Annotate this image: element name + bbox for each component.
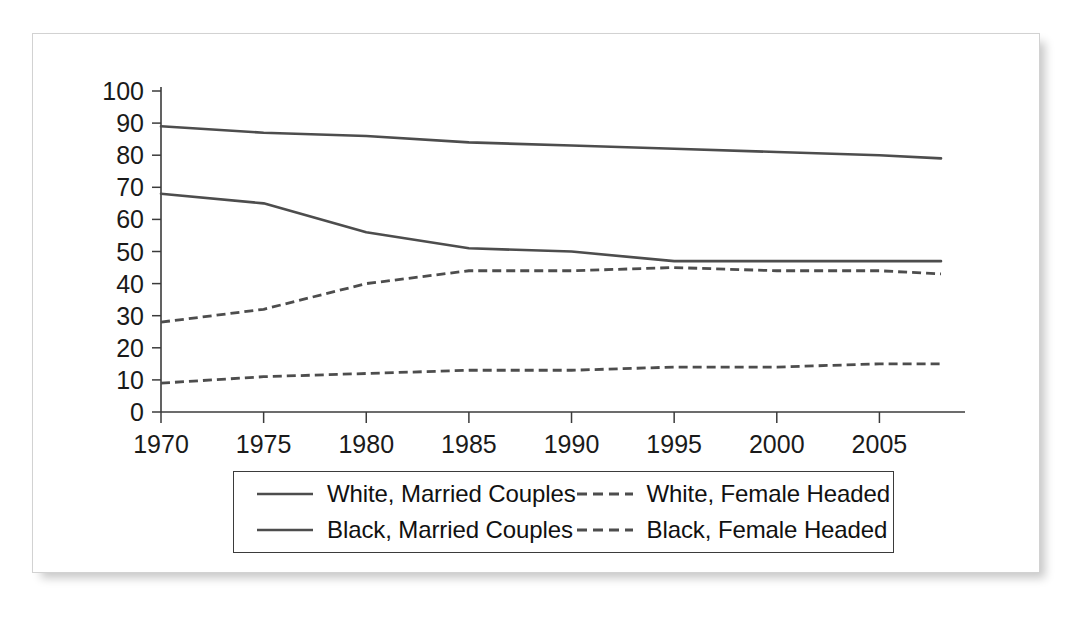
series-line-black-female-headed <box>161 364 941 383</box>
legend-item-white-married[interactable]: White, Married Couples <box>256 480 576 508</box>
y-tick-label: 20 <box>116 334 144 362</box>
y-tick-label: 50 <box>116 238 144 266</box>
x-tick-label: 1970 <box>133 430 189 458</box>
legend-item-black-female-headed[interactable]: Black, Female Headed <box>576 516 890 544</box>
x-tick-label: 2000 <box>749 430 805 458</box>
series-line-white-married-couples <box>161 126 941 158</box>
data-series-group <box>161 126 941 383</box>
y-tick-label: 90 <box>116 109 144 137</box>
legend-swatch-dashed-icon <box>576 489 634 499</box>
legend-label-black-female-headed: Black, Female Headed <box>647 516 888 544</box>
chart-legend: White, Married Couples White, Female Hea… <box>233 471 894 553</box>
x-tick-label: 1995 <box>646 430 702 458</box>
legend-item-white-female-headed[interactable]: White, Female Headed <box>576 480 890 508</box>
x-tick-label: 1980 <box>338 430 394 458</box>
y-axis-ticks: 0102030405060708090100 <box>102 77 161 426</box>
legend-label-black-married: Black, Married Couples <box>327 516 573 544</box>
x-axis-ticks: 19701975198019851990199520002005 <box>133 412 907 458</box>
x-tick-label: 2005 <box>852 430 908 458</box>
x-tick-label: 1975 <box>236 430 292 458</box>
legend-item-black-married[interactable]: Black, Married Couples <box>256 516 576 544</box>
y-tick-label: 60 <box>116 205 144 233</box>
chart-figure-frame: 0102030405060708090100 19701975198019851… <box>32 33 1040 573</box>
y-tick-label: 30 <box>116 302 144 330</box>
y-tick-label: 40 <box>116 270 144 298</box>
series-line-white-female-headed <box>161 268 941 323</box>
series-line-black-married-couples <box>161 194 941 261</box>
legend-swatch-solid-icon <box>256 489 314 499</box>
x-tick-label: 1990 <box>544 430 600 458</box>
y-tick-label: 80 <box>116 141 144 169</box>
y-tick-label: 0 <box>130 398 144 426</box>
y-tick-label: 100 <box>102 77 144 105</box>
legend-swatch-solid-icon <box>256 525 314 535</box>
figure-page: 0102030405060708090100 19701975198019851… <box>0 0 1072 630</box>
legend-label-white-married: White, Married Couples <box>327 480 576 508</box>
x-tick-label: 1985 <box>441 430 497 458</box>
legend-label-white-female-headed: White, Female Headed <box>647 480 890 508</box>
y-tick-label: 10 <box>116 366 144 394</box>
y-tick-label: 70 <box>116 173 144 201</box>
legend-swatch-dashed-icon <box>576 525 634 535</box>
